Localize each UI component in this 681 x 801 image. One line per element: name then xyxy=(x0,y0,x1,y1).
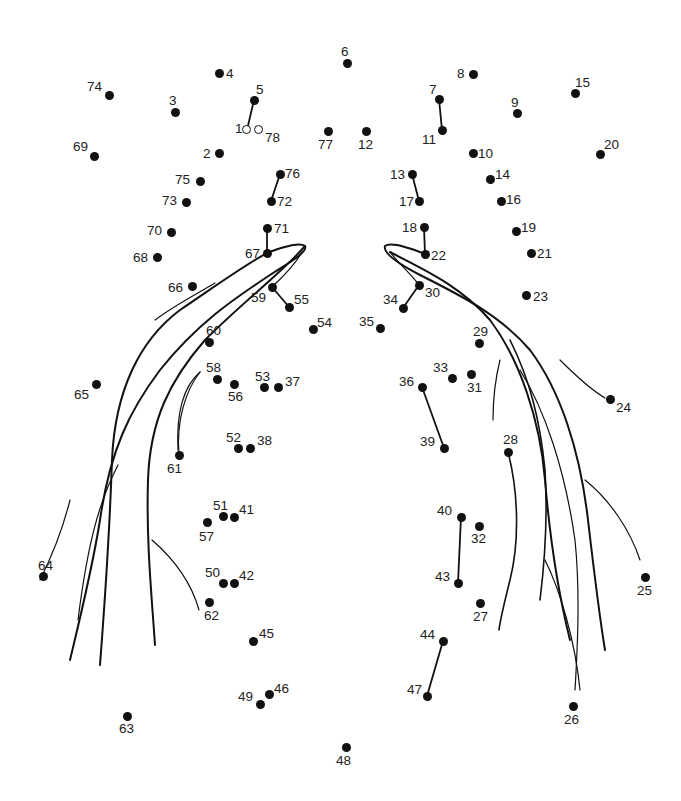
dot-19[interactable] xyxy=(512,227,521,236)
dot-46[interactable] xyxy=(265,690,274,699)
dot-31[interactable] xyxy=(467,370,476,379)
dot-28[interactable] xyxy=(504,448,513,457)
dot-44[interactable] xyxy=(439,637,448,646)
dot-24[interactable] xyxy=(606,395,615,404)
dot-2[interactable] xyxy=(215,149,224,158)
dot-30[interactable] xyxy=(415,281,424,290)
segment-44-47 xyxy=(427,641,443,696)
dot-39[interactable] xyxy=(440,444,449,453)
dot-label-69: 69 xyxy=(73,140,88,154)
dot-12[interactable] xyxy=(362,127,371,136)
dot-8[interactable] xyxy=(469,70,478,79)
dot-label-47: 47 xyxy=(407,683,422,697)
dot-14[interactable] xyxy=(486,175,495,184)
dot-62[interactable] xyxy=(205,598,214,607)
dot-label-75: 75 xyxy=(175,173,190,187)
dot-26[interactable] xyxy=(569,702,578,711)
dot-60[interactable] xyxy=(205,338,214,347)
dot-40[interactable] xyxy=(457,513,466,522)
dot-label-52: 52 xyxy=(226,431,241,445)
dot-label-77: 77 xyxy=(318,138,333,152)
dot-label-27: 27 xyxy=(473,610,488,624)
dot-16[interactable] xyxy=(497,197,506,206)
dot-61[interactable] xyxy=(175,451,184,460)
dot-label-42: 42 xyxy=(239,569,254,583)
dot-label-51: 51 xyxy=(213,499,228,513)
dot-43[interactable] xyxy=(454,579,463,588)
dot-22[interactable] xyxy=(421,250,430,259)
dot-57[interactable] xyxy=(203,518,212,527)
dot-label-43: 43 xyxy=(435,570,450,584)
dot-17[interactable] xyxy=(415,197,424,206)
dot-label-56: 56 xyxy=(228,390,243,404)
dot-56[interactable] xyxy=(230,380,239,389)
dot-label-63: 63 xyxy=(119,722,134,736)
dot-label-9: 9 xyxy=(511,96,519,110)
dot-72[interactable] xyxy=(267,197,276,206)
dot-47[interactable] xyxy=(423,692,432,701)
dot-36[interactable] xyxy=(418,383,427,392)
dot-label-17: 17 xyxy=(399,195,414,209)
dot-label-20: 20 xyxy=(604,138,619,152)
dot-73[interactable] xyxy=(182,198,191,207)
dot-label-28: 28 xyxy=(503,433,518,447)
dot-65[interactable] xyxy=(92,380,101,389)
dot-45[interactable] xyxy=(249,637,258,646)
dot-to-dot-puzzle: 1234567891011121314151617181920212223242… xyxy=(0,0,681,801)
dot-label-11: 11 xyxy=(422,133,436,147)
dot-75[interactable] xyxy=(196,177,205,186)
dot-67[interactable] xyxy=(263,249,272,258)
dot-label-62: 62 xyxy=(204,609,219,623)
dot-58[interactable] xyxy=(213,375,222,384)
dot-71[interactable] xyxy=(263,224,272,233)
dot-label-71: 71 xyxy=(274,222,289,236)
dot-69[interactable] xyxy=(90,152,99,161)
dot-25[interactable] xyxy=(641,573,650,582)
dot-11[interactable] xyxy=(438,126,447,135)
right-feather-4 xyxy=(585,480,640,560)
dot-label-50: 50 xyxy=(205,566,220,580)
right-feather-3 xyxy=(520,370,578,690)
dot-77[interactable] xyxy=(324,127,333,136)
dot-6[interactable] xyxy=(343,59,352,68)
dot-13[interactable] xyxy=(408,170,417,179)
dot-37[interactable] xyxy=(274,383,283,392)
dot-48[interactable] xyxy=(342,743,351,752)
dot-34[interactable] xyxy=(399,304,408,313)
dot-label-35: 35 xyxy=(359,315,374,329)
right-feather-5 xyxy=(545,560,580,690)
dot-66[interactable] xyxy=(188,282,197,291)
dot-59[interactable] xyxy=(268,283,277,292)
right-feather-7 xyxy=(390,252,419,285)
dot-label-30: 30 xyxy=(425,286,440,300)
dot-76[interactable] xyxy=(276,170,285,179)
dot-18[interactable] xyxy=(420,223,429,232)
dot-23[interactable] xyxy=(522,291,531,300)
dot-label-40: 40 xyxy=(437,504,452,518)
dot-29[interactable] xyxy=(475,339,484,348)
segment-40-43 xyxy=(458,517,461,583)
dot-3[interactable] xyxy=(171,108,180,117)
dot-68[interactable] xyxy=(153,253,162,262)
dot-49[interactable] xyxy=(256,700,265,709)
dot-42[interactable] xyxy=(230,579,239,588)
dot-63[interactable] xyxy=(123,712,132,721)
left-wing-inner-stroke xyxy=(100,253,267,665)
dot-label-36: 36 xyxy=(399,375,414,389)
dot-27[interactable] xyxy=(476,599,485,608)
dot-32[interactable] xyxy=(475,522,484,531)
dot-41[interactable] xyxy=(230,513,239,522)
dot-label-73: 73 xyxy=(162,194,177,208)
dot-label-14: 14 xyxy=(495,168,510,182)
dot-33[interactable] xyxy=(448,374,457,383)
right-wing-inner-stroke xyxy=(390,252,570,640)
dot-10[interactable] xyxy=(469,149,478,158)
dot-21[interactable] xyxy=(527,249,536,258)
dot-label-44: 44 xyxy=(420,628,435,642)
dot-70[interactable] xyxy=(167,228,176,237)
dot-38[interactable] xyxy=(246,444,255,453)
dot-4[interactable] xyxy=(215,69,224,78)
dot-74[interactable] xyxy=(105,91,114,100)
dot-35[interactable] xyxy=(376,324,385,333)
dot-55[interactable] xyxy=(285,303,294,312)
